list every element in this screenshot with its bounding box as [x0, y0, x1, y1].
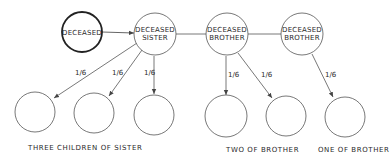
- node-sister-child-1: [15, 92, 55, 132]
- node-sister-child-3: [134, 95, 174, 135]
- edge-sister-to-child-1: [54, 43, 137, 98]
- inheritance-diagram: 1/6 1/6 1/6 1/6 1/6 1/6 DECEASED DECEASE…: [0, 0, 390, 161]
- share-label: 1/6: [325, 71, 337, 79]
- node-deceased-brother-2: DECEASED BROTHER: [281, 13, 323, 55]
- node-brother1-child-1: [205, 95, 247, 137]
- svg-text:DECEASED: DECEASED: [282, 26, 322, 34]
- node-deceased-brother-1: DECEASED BROTHER: [206, 13, 248, 55]
- share-label: 1/6: [261, 71, 273, 79]
- node-deceased: DECEASED: [62, 12, 102, 52]
- node-sister-child-2: [74, 93, 114, 133]
- group-label-brother2-children: ONE OF BROTHER: [318, 146, 390, 154]
- share-label: 1/6: [75, 69, 87, 77]
- node-deceased-sister: DECEASED SISTER: [134, 13, 176, 55]
- node-brother1-child-2: [266, 96, 306, 136]
- share-label: 1/6: [144, 69, 156, 77]
- node-brother2-child-1: [325, 97, 365, 137]
- edge-deceased-to-sister: [102, 32, 134, 33]
- svg-text:SISTER: SISTER: [142, 34, 168, 42]
- group-label-sister-children: THREE CHILDREN OF SISTER: [27, 144, 142, 152]
- svg-text:DECEASED: DECEASED: [207, 26, 247, 34]
- group-label-brother1-children: TWO OF BROTHER: [225, 146, 299, 154]
- svg-text:BROTHER: BROTHER: [209, 34, 244, 42]
- svg-text:DECEASED: DECEASED: [62, 29, 102, 37]
- share-label: 1/6: [112, 69, 124, 77]
- share-label: 1/6: [228, 71, 240, 79]
- svg-text:DECEASED: DECEASED: [135, 26, 175, 34]
- svg-text:BROTHER: BROTHER: [284, 34, 319, 42]
